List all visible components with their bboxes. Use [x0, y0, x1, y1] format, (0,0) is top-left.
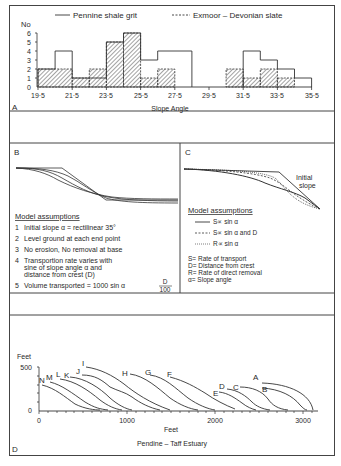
x-tick-25-5: 25·5	[134, 92, 148, 99]
b-item-3: No erosion, No removal at base	[24, 246, 123, 253]
c-def-alpha: α= Slope angle	[188, 276, 232, 284]
panel-a-histogram: Pennine shale grit Exmoor – Devonian sla…	[12, 11, 319, 113]
b-slope-profiles	[16, 168, 178, 203]
d-x-tick-3000: 3000	[295, 417, 311, 424]
d-label-h: H	[122, 369, 128, 378]
x-axis-title: Slope Angle	[151, 105, 188, 113]
d-y-tick-500: 500	[20, 364, 32, 371]
y-tick-1: 1	[27, 75, 31, 82]
x-tick-21-5: 21·5	[65, 92, 79, 99]
d-x-tick-1000: 1000	[119, 417, 135, 424]
d-profile-curves	[42, 367, 313, 410]
d-label-m: M	[46, 373, 53, 382]
c-annotation-initial: Initial	[296, 174, 313, 181]
d-label-a: A	[253, 373, 259, 382]
d-y-axis-title: Feet	[17, 353, 31, 360]
exmoor-bars	[38, 33, 295, 87]
d-label-c: C	[233, 383, 239, 392]
b-item-4-num: 4	[15, 257, 19, 264]
d-label-b: B	[262, 385, 267, 394]
d-label-i: I	[82, 359, 84, 368]
b-item-4-line3: distance from crest (D)	[24, 271, 95, 279]
legend-exmoor: Exmoor – Devonian slate	[193, 11, 283, 20]
b-item-1-num: 1	[15, 224, 19, 231]
b-heading: Model assumptions	[15, 212, 80, 221]
d-label-k: K	[64, 371, 70, 380]
d-profile-labels: A B C D E F G H I J K L M N	[39, 359, 267, 398]
d-label-l: L	[56, 370, 61, 379]
b-item-5: Volume transported = 1000 sin α	[24, 282, 125, 290]
x-tick-19-5: 19·5	[31, 92, 45, 99]
b-frac-den: 100	[160, 286, 171, 293]
c-legend-dotted: R∝ sin α	[213, 240, 239, 247]
y-tick-4: 4	[27, 48, 31, 55]
d-x-tick-2000: 2000	[207, 417, 223, 424]
x-tick-31-5: 31·5	[236, 92, 250, 99]
d-caption: Pendine – Taff Estuary	[137, 440, 208, 448]
c-legend-solid: S∝ sin α	[213, 218, 238, 225]
c-heading: Model assumptions	[188, 206, 253, 215]
b-item-1: Initial slope α = rectilinear 35°	[24, 224, 116, 232]
y-tick-6: 6	[27, 30, 31, 37]
y-axis-title: No	[21, 20, 31, 29]
y-tick-2: 2	[27, 66, 31, 73]
d-x-tick-0: 0	[37, 417, 41, 424]
b-frac-num: D	[163, 278, 168, 285]
d-label-d: D	[219, 382, 225, 391]
b-item-5-num: 5	[15, 282, 19, 289]
c-def-r: R= Rate of direct removal	[188, 269, 262, 276]
panel-letter-b: B	[14, 148, 19, 157]
legend-pennine: Pennine shale grit	[73, 11, 138, 20]
d-label-n: N	[39, 376, 45, 385]
panel-c-model: C Initial slope Model assumptions S∝ sin…	[184, 148, 320, 284]
d-label-e: E	[213, 389, 218, 398]
b-item-2-num: 2	[15, 235, 19, 242]
x-tick-29-5: 29·5	[202, 92, 216, 99]
x-tick-33-5: 33·5	[270, 92, 284, 99]
panel-d-profiles: Feet 500 0 0 1000 2000 3000 Feet Pendine…	[12, 353, 318, 454]
x-tick-27-5: 27·5	[168, 92, 182, 99]
d-label-j: J	[76, 367, 80, 376]
panel-letter-c: C	[185, 148, 191, 157]
c-def-d: D= Distance from crest	[188, 262, 254, 269]
d-label-f: F	[167, 370, 172, 379]
b-item-2: Level ground at each end point	[24, 235, 120, 243]
b-item-3-num: 3	[15, 246, 19, 253]
y-tick-0: 0	[27, 84, 31, 91]
y-tick-5: 5	[27, 39, 31, 46]
d-label-g: G	[145, 368, 151, 377]
c-legend-dashed: S∝ sin α and D	[213, 229, 257, 236]
x-tick-35-5: 35·5	[305, 92, 319, 99]
panel-letter-a: A	[12, 103, 18, 112]
d-y-tick-0: 0	[28, 407, 32, 414]
panel-b-model: B Model assumptions 1 Initial slope α = …	[14, 148, 178, 293]
c-annotation-slope: slope	[299, 182, 316, 190]
x-tick-23-5: 23·5	[99, 92, 113, 99]
panel-letter-d: D	[12, 445, 18, 454]
figure-canvas: Pennine shale grit Exmoor – Devonian sla…	[0, 0, 341, 466]
y-tick-3: 3	[27, 57, 31, 64]
d-x-axis-title: Feet	[164, 426, 178, 433]
